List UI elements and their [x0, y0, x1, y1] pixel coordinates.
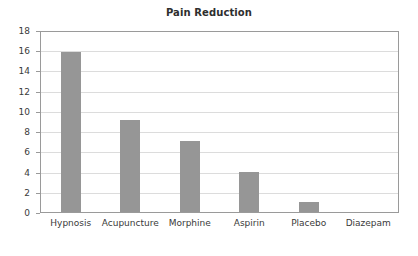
y-tick-label-12: 12 — [19, 87, 30, 96]
bar-slot-placebo — [279, 32, 339, 212]
y-tick-label-8: 8 — [24, 128, 30, 137]
bar-aspirin[interactable] — [239, 172, 259, 212]
bar-acupuncture[interactable] — [120, 120, 140, 212]
x-tick-label-placebo: Placebo — [279, 218, 339, 229]
chart-title: Pain Reduction — [0, 7, 418, 18]
y-tick-label-14: 14 — [19, 67, 30, 76]
bar-slot-diazepam — [339, 32, 399, 212]
x-tick-label-hypnosis: Hypnosis — [41, 218, 101, 229]
y-tick-label-18: 18 — [19, 27, 30, 36]
x-tick-label-acupuncture: Acupuncture — [101, 218, 161, 229]
bar-slot-hypnosis — [41, 32, 101, 212]
y-tick-label-0: 0 — [24, 209, 30, 218]
y-tick-label-10: 10 — [19, 107, 30, 116]
y-axis: 024681012141618 — [0, 31, 36, 213]
bar-slot-aspirin — [220, 32, 280, 212]
y-tick-label-16: 16 — [19, 47, 30, 56]
bar-slot-acupuncture — [101, 32, 161, 212]
bar-placebo[interactable] — [299, 202, 319, 212]
bars-layer — [41, 32, 398, 212]
x-tick-label-morphine: Morphine — [160, 218, 220, 229]
bar-slot-morphine — [160, 32, 220, 212]
y-tick-label-2: 2 — [24, 188, 30, 197]
y-tick-label-4: 4 — [24, 168, 30, 177]
y-tick-label-6: 6 — [24, 148, 30, 157]
x-axis: HypnosisAcupunctureMorphineAspirinPlaceb… — [41, 218, 398, 229]
chart-container: Pain Reduction 024681012141618 HypnosisA… — [0, 0, 418, 256]
x-tick-label-diazepam: Diazepam — [339, 218, 399, 229]
y-tick-mark — [36, 213, 40, 214]
x-tick-label-aspirin: Aspirin — [220, 218, 280, 229]
bar-hypnosis[interactable] — [61, 52, 81, 212]
bar-morphine[interactable] — [180, 141, 200, 212]
